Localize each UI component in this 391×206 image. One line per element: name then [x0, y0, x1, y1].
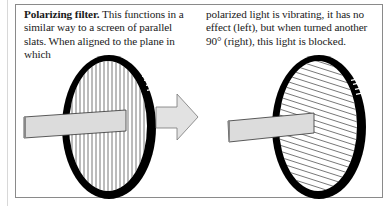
- arrow-right-icon: [156, 94, 198, 140]
- polarizing-filter-illustration: [0, 0, 391, 206]
